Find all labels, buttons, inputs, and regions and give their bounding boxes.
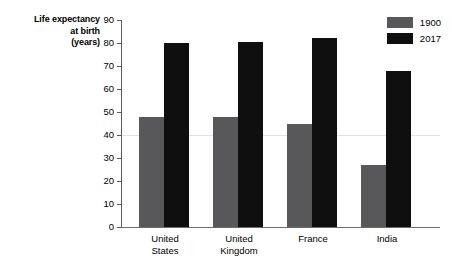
- legend-item-1900: 1900: [387, 17, 441, 28]
- legend-item-2017: 2017: [387, 33, 441, 44]
- legend-label: 1900: [420, 18, 441, 28]
- y-tick-label: 60: [103, 84, 114, 94]
- y-tick-mark: [117, 112, 121, 113]
- y-tick-label: 80: [103, 38, 114, 48]
- y-axis-line: [121, 20, 122, 227]
- bar-chart: Life expectancy at birth (years) 0102030…: [0, 0, 452, 266]
- bar-2017-india: [386, 71, 411, 227]
- bar-2017-united-kingdom: [238, 42, 263, 227]
- chart-legend: 19002017: [387, 17, 441, 44]
- bar-2017-france: [312, 38, 337, 227]
- y-axis-title-line-3: (years): [8, 37, 100, 49]
- bar-group: India: [361, 20, 411, 227]
- bar-group: France: [287, 20, 337, 227]
- y-tick-mark: [117, 135, 121, 136]
- bar-1900-france: [287, 124, 312, 228]
- y-tick-mark: [117, 158, 121, 159]
- bar-group: UnitedStates: [139, 20, 189, 227]
- y-tick-label: 40: [103, 130, 114, 140]
- y-axis-title-line-2: at birth: [8, 26, 100, 38]
- y-tick-mark: [117, 227, 121, 228]
- y-tick-mark: [117, 20, 121, 21]
- y-tick-label: 10: [103, 199, 114, 209]
- legend-swatch-icon: [387, 17, 413, 28]
- y-tick-label: 30: [103, 153, 114, 163]
- y-tick-mark: [117, 181, 121, 182]
- x-axis-label-line: India: [332, 233, 442, 245]
- x-axis-label: India: [332, 233, 442, 245]
- y-tick-label: 50: [103, 107, 114, 117]
- y-tick-label: 20: [103, 176, 114, 186]
- y-tick-label: 90: [103, 15, 114, 25]
- bar-2017-united-states: [164, 43, 189, 227]
- plot-area: 0102030405060708090 UnitedStatesUnitedKi…: [121, 20, 440, 227]
- bar-1900-united-states: [139, 117, 164, 227]
- y-tick-mark: [117, 66, 121, 67]
- bar-group: UnitedKingdom: [213, 20, 263, 227]
- legend-label: 2017: [420, 34, 441, 44]
- bar-1900-india: [361, 165, 386, 227]
- y-tick-label: 0: [109, 222, 114, 232]
- y-axis-title: Life expectancy at birth (years): [8, 14, 100, 49]
- y-tick-mark: [117, 204, 121, 205]
- y-tick-mark: [117, 43, 121, 44]
- x-axis-line: [121, 227, 440, 228]
- x-axis-label-line: Kingdom: [184, 245, 294, 257]
- bar-1900-united-kingdom: [213, 117, 238, 227]
- y-tick-label: 70: [103, 61, 114, 71]
- y-axis-title-line-1: Life expectancy: [8, 14, 100, 26]
- legend-swatch-icon: [387, 33, 413, 44]
- y-tick-mark: [117, 89, 121, 90]
